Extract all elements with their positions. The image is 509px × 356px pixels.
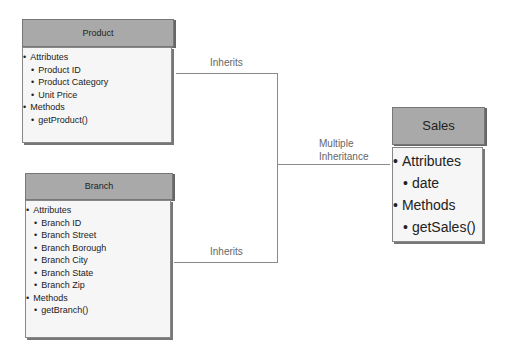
product-method-item: getProduct() [23, 114, 171, 127]
product-attribute-item: Product Category [23, 76, 171, 89]
product-methods-heading: Methods [23, 101, 171, 114]
sales-attributes-heading: Attributes [393, 150, 482, 172]
sales-methods-heading: Methods [393, 194, 482, 216]
branch-attribute-item: Branch Borough [26, 242, 170, 255]
vertical-connector-line [277, 73, 278, 263]
sales-method-item: getSales() [393, 216, 482, 238]
inherits-label-top: Inherits [210, 56, 243, 69]
sales-class-header: Sales [392, 107, 485, 145]
branch-attribute-item: Branch Street [26, 229, 170, 242]
branch-methods-heading: Methods [26, 292, 170, 305]
product-class-header: Product [22, 19, 174, 47]
branch-class-body: Attributes Branch ID Branch Street Branc… [25, 200, 171, 338]
branch-method-item: getBranch() [26, 304, 170, 317]
branch-attribute-item: Branch ID [26, 217, 170, 230]
product-attributes-heading: Attributes [23, 51, 171, 64]
branch-attributes-heading: Attributes [26, 204, 170, 217]
product-attribute-item: Unit Price [23, 89, 171, 102]
sales-class-title: Sales [422, 118, 455, 133]
inherits-label-bottom: Inherits [210, 245, 243, 258]
branch-class-title: Branch [85, 181, 114, 191]
sales-connector-line [277, 164, 390, 165]
multiple-inheritance-line1: Multiple [319, 137, 368, 150]
multiple-inheritance-label: Multiple Inheritance [319, 137, 368, 163]
sales-class-body: Attributes date Methods getSales() [392, 147, 483, 242]
product-class-title: Product [82, 28, 113, 38]
branch-class-header: Branch [25, 173, 173, 200]
branch-attribute-item: Branch Zip [26, 279, 170, 292]
sales-attribute-item: date [393, 172, 482, 194]
multiple-inheritance-line2: Inheritance [319, 150, 368, 163]
branch-attribute-item: Branch State [26, 267, 170, 280]
product-connector-line [176, 73, 277, 74]
branch-connector-line [174, 262, 277, 263]
branch-attribute-item: Branch City [26, 254, 170, 267]
product-attribute-item: Product ID [23, 64, 171, 77]
product-class-body: Attributes Product ID Product Category U… [22, 47, 172, 143]
